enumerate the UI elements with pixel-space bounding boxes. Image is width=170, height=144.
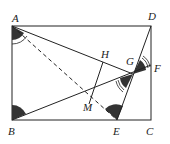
label-a: A: [11, 12, 19, 24]
label-c: C: [146, 125, 154, 137]
label-m: M: [82, 101, 93, 113]
segment-bf: [12, 65, 151, 120]
segment-ae-dashed: [12, 26, 117, 120]
geometry-diagram: A B C D E F G H M: [0, 0, 170, 144]
label-f: F: [153, 62, 161, 74]
label-h: H: [100, 48, 110, 60]
label-e: E: [112, 125, 120, 137]
angle-mark-g-upper: [133, 60, 146, 74]
label-b: B: [8, 125, 15, 137]
label-d: D: [147, 10, 156, 22]
segment-ag: [12, 26, 133, 74]
segment-de: [117, 26, 151, 120]
segment-hm: [89, 62, 103, 104]
label-g: G: [126, 55, 134, 67]
